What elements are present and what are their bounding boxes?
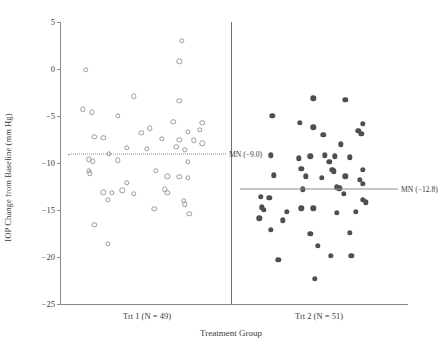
data-point [100, 135, 105, 140]
data-point [328, 253, 333, 258]
data-point [124, 145, 129, 150]
data-point [322, 153, 327, 158]
data-point [347, 155, 352, 160]
data-point [144, 146, 149, 151]
y-tick-label: −20 [42, 252, 55, 262]
y-tick-mark [57, 210, 61, 211]
data-point [341, 191, 346, 196]
data-point [197, 127, 202, 132]
data-point [115, 157, 120, 162]
data-point [124, 180, 129, 185]
data-point [176, 174, 181, 179]
data-point [115, 113, 120, 118]
data-point [200, 141, 205, 146]
group-label-trt-1: Trt 1 (N = 49) [123, 311, 171, 321]
y-tick-mark [57, 69, 61, 70]
y-tick-mark [57, 257, 61, 258]
data-point [258, 194, 263, 199]
data-point [105, 197, 110, 202]
data-point [83, 67, 88, 72]
data-point [165, 190, 170, 195]
y-tick-label: −10 [42, 158, 55, 168]
data-point [299, 205, 304, 210]
data-point [343, 173, 348, 178]
data-point [308, 231, 313, 236]
data-point [185, 175, 190, 180]
data-point [297, 120, 302, 125]
data-point [105, 241, 110, 246]
data-point [138, 130, 143, 135]
data-point [303, 173, 308, 178]
data-point [256, 216, 261, 221]
data-point [315, 243, 320, 248]
mean-label: MN (−9.0) [229, 150, 262, 159]
data-point [152, 206, 157, 211]
data-point [87, 171, 92, 176]
data-point [348, 253, 353, 258]
data-point [331, 169, 336, 174]
y-tick-mark [57, 22, 61, 23]
data-point [310, 205, 315, 210]
mean-label: MN (−12.8) [401, 185, 438, 194]
data-point [165, 173, 170, 178]
data-point [182, 147, 187, 152]
y-axis-label: IOP Change from Baseline (mm Hg) [0, 0, 16, 355]
data-point [90, 158, 95, 163]
data-point [182, 202, 187, 207]
y-tick-label: −15 [42, 205, 55, 215]
data-point [92, 222, 97, 227]
x-axis-label: Treatment Group [200, 328, 262, 338]
data-point [131, 191, 136, 196]
data-point [176, 98, 181, 103]
data-point [200, 120, 205, 125]
data-point [171, 119, 176, 124]
data-point [185, 159, 190, 164]
data-point [334, 210, 339, 215]
data-point [185, 129, 190, 134]
data-point [284, 209, 289, 214]
y-tick-mark [57, 116, 61, 117]
data-point [343, 97, 348, 102]
group-label-trt-2: Trt 2 (N = 51) [295, 311, 343, 321]
y-tick-label: 0 [51, 64, 55, 74]
data-point [109, 190, 114, 195]
data-point [310, 125, 315, 130]
data-point [360, 121, 365, 126]
mean-line: MN (−9.0) [68, 153, 226, 154]
data-point [321, 132, 326, 137]
data-point [80, 107, 85, 112]
data-point [332, 154, 337, 159]
data-point [100, 189, 105, 194]
x-axis-line [60, 304, 408, 305]
data-point [261, 207, 266, 212]
data-point [275, 257, 280, 262]
data-point [179, 38, 184, 43]
data-point [147, 126, 152, 131]
data-point [119, 188, 124, 193]
data-point [89, 110, 94, 115]
plot-area: 50−5−10−15−20−25 MN (−9.0)MN (−12.8) Trt… [60, 22, 408, 304]
data-point [353, 209, 358, 214]
data-point [92, 134, 97, 139]
data-point [308, 154, 313, 159]
data-point [176, 59, 181, 64]
data-point [271, 173, 276, 178]
y-tick-label: 5 [51, 17, 55, 27]
data-point [280, 218, 285, 223]
data-point [319, 175, 324, 180]
data-point [360, 181, 365, 186]
data-point [267, 195, 272, 200]
data-point [173, 144, 178, 149]
data-point [270, 113, 275, 118]
data-point [360, 167, 365, 172]
data-point [187, 211, 192, 216]
y-tick-mark [57, 304, 61, 305]
data-point [176, 137, 181, 142]
data-point [338, 141, 343, 146]
data-point [347, 230, 352, 235]
data-point [153, 168, 158, 173]
y-tick-label: −5 [46, 111, 55, 121]
mean-line: MN (−12.8) [240, 189, 398, 190]
data-point [268, 153, 273, 158]
